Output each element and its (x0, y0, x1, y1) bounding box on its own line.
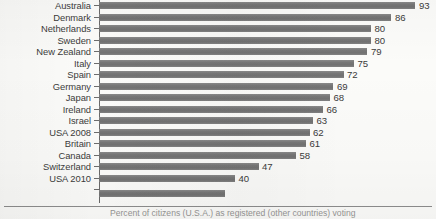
bar-row: Australia 93 (0, 0, 436, 12)
bar (99, 2, 415, 9)
bar-row: New Zealand 79 (0, 46, 436, 58)
bar (99, 94, 330, 101)
caption-divider (4, 206, 432, 207)
bar (99, 71, 344, 78)
category-label: Sweden (0, 35, 91, 47)
bar (99, 60, 354, 67)
value-label: 72 (347, 69, 358, 81)
category-label: Canada (0, 150, 91, 162)
value-label: 69 (337, 81, 348, 93)
bar (99, 175, 235, 182)
bar-row: Germany 69 (0, 81, 436, 93)
bar-chart: Australia 93 Denmark 86 Netherlands 80 S… (0, 0, 436, 219)
bar-row: Canada 58 (0, 150, 436, 162)
bar (99, 152, 296, 159)
category-label: Japan (0, 92, 91, 104)
value-label: 47 (262, 161, 273, 173)
bar-row: Netherlands 80 (0, 23, 436, 35)
bar (99, 163, 259, 170)
bar-row: Italy 75 (0, 58, 436, 70)
category-label: New Zealand (0, 46, 91, 58)
bar-row: Denmark 86 (0, 12, 436, 24)
bar-row: Japan 68 (0, 92, 436, 104)
bar (99, 106, 323, 113)
bar (99, 14, 391, 21)
value-label: 40 (239, 173, 250, 185)
category-label: Switzerland (0, 161, 91, 173)
value-label: 79 (371, 46, 382, 58)
bar-row: Britain 61 (0, 138, 436, 150)
value-label: 66 (327, 104, 338, 116)
value-label: 86 (395, 12, 406, 24)
bar-row: USA 2008 62 (0, 127, 436, 139)
category-label: Denmark (0, 12, 91, 24)
value-label: 62 (313, 127, 324, 139)
bar-row: USA 2010 40 (0, 173, 436, 185)
bar-row: Switzerland 47 (0, 161, 436, 173)
category-label: Ireland (0, 104, 91, 116)
value-label: 93 (419, 0, 430, 12)
category-label: Germany (0, 81, 91, 93)
value-label: 61 (310, 138, 321, 150)
category-label: Netherlands (0, 23, 91, 35)
category-label: USA 2010 (0, 173, 91, 185)
bar-row: Ireland 66 (0, 104, 436, 116)
bar (99, 25, 371, 32)
bar (99, 129, 310, 136)
bar-row: Israel 63 (0, 115, 436, 127)
bar (99, 37, 371, 44)
value-label: 75 (358, 58, 369, 70)
category-label: Israel (0, 115, 91, 127)
value-label: 58 (300, 150, 311, 162)
bar (99, 83, 333, 90)
value-label: 80 (375, 23, 386, 35)
category-label: USA 2008 (0, 127, 91, 139)
category-label: Britain (0, 138, 91, 150)
bar-row: Sweden 80 (0, 35, 436, 47)
value-label: 63 (317, 115, 328, 127)
bar (99, 140, 306, 147)
bar-row-last (0, 184, 436, 196)
category-label: Spain (0, 69, 91, 81)
category-label: Australia (0, 0, 91, 12)
bar (99, 48, 367, 55)
value-label: 68 (334, 92, 345, 104)
value-label: 80 (375, 35, 386, 47)
bar (99, 190, 225, 197)
chart-caption: Percent of citizens (U.S.A.) as register… (110, 208, 430, 218)
category-label: Italy (0, 58, 91, 70)
bar-row: Spain 72 (0, 69, 436, 81)
bar (99, 117, 313, 124)
